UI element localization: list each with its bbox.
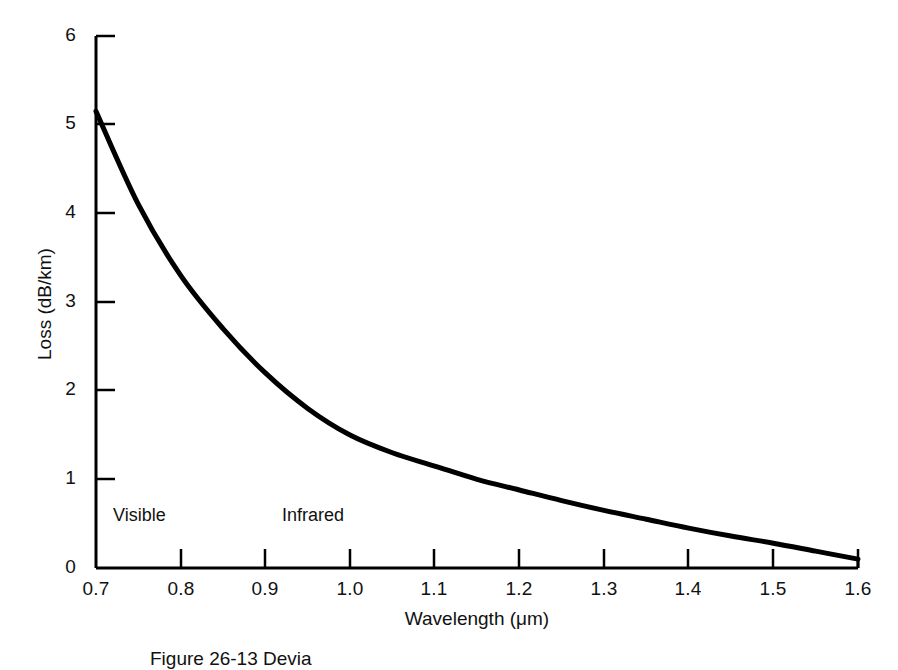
y-tick-label-0: 0 (42, 556, 76, 578)
x-axis-ticks (181, 549, 858, 568)
x-tick-label-0.7: 0.7 (66, 578, 126, 600)
y-tick-label-1: 1 (42, 467, 76, 489)
x-tick-label-1.0: 1.0 (320, 578, 380, 600)
x-tick-label-0.9: 0.9 (235, 578, 295, 600)
y-tick-label-4: 4 (42, 201, 76, 223)
loss-curve (96, 111, 858, 559)
x-axis-title: Wavelength (μm) (327, 608, 627, 630)
x-tick-label-1.2: 1.2 (489, 578, 549, 600)
annotation-infrared: Infrared (282, 505, 344, 526)
x-tick-label-1.3: 1.3 (574, 578, 634, 600)
x-tick-label-1.5: 1.5 (743, 578, 803, 600)
x-tick-label-0.8: 0.8 (151, 578, 211, 600)
x-tick-label-1.6: 1.6 (828, 578, 888, 600)
y-tick-label-6: 6 (42, 24, 76, 46)
figure-caption: Figure 26-13 Devia (150, 648, 312, 670)
axes-group (96, 36, 858, 568)
y-tick-label-2: 2 (42, 378, 76, 400)
annotation-visible: Visible (113, 505, 166, 526)
y-axis-ticks (96, 36, 115, 479)
y-tick-label-3: 3 (42, 290, 76, 312)
y-tick-label-5: 5 (42, 112, 76, 134)
x-tick-label-1.4: 1.4 (658, 578, 718, 600)
x-tick-label-1.1: 1.1 (404, 578, 464, 600)
